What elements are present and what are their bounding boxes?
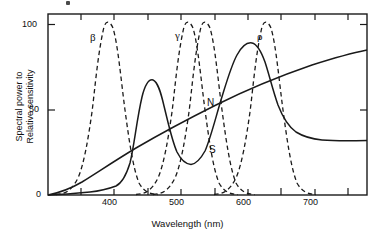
n-curve-label: N <box>207 97 214 108</box>
s-curve-label: S <box>209 144 216 155</box>
x-tick-400: 400 <box>102 197 117 207</box>
gamma-curve-label: γ <box>175 29 180 41</box>
curve-ns-reflectance <box>48 43 367 195</box>
curve-gamma <box>136 22 238 194</box>
y-tick-100: 100 <box>22 19 37 29</box>
curve-spectral-power <box>48 50 367 195</box>
beta-curve-label: β <box>90 31 96 43</box>
x-tick-500: 500 <box>169 197 184 207</box>
y-tick-0: 0 <box>36 189 41 199</box>
x-axis-ticks-top <box>81 14 348 20</box>
rho-curve-label: ρ <box>257 30 263 42</box>
x-axis-label: Wavelength (nm) <box>0 218 375 229</box>
curve-beta <box>56 22 158 194</box>
spectral-sensitivity-chart <box>0 0 375 237</box>
y-axis-label-line1: Spectral power to <box>14 71 24 141</box>
curve-rho <box>214 22 316 194</box>
x-tick-700: 700 <box>303 197 318 207</box>
y-tick-50: 50 <box>29 104 39 114</box>
x-tick-600: 600 <box>236 197 251 207</box>
